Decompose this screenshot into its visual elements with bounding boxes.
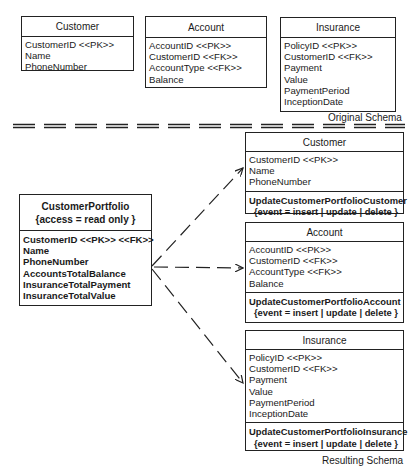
- resulting-schema-label: Resulting Schema: [322, 455, 403, 466]
- trigger-event: {event = insert | update | delete }: [249, 206, 400, 218]
- attribute: PolicyID <<PK>>: [249, 352, 400, 363]
- attribute: Balance: [249, 278, 400, 289]
- trigger-event: {event = insert | update | delete }: [249, 307, 400, 319]
- attribute: CustomerID <<PK>> <<FK>>: [23, 234, 148, 245]
- attribute: InsuranceTotalPayment: [23, 279, 148, 290]
- table-header: Account: [246, 223, 403, 242]
- attribute: PaymentPeriod: [249, 397, 400, 408]
- trigger-section: UpdateCustomerPortfolioAccount {event = …: [246, 292, 403, 322]
- trigger-name: UpdateCustomerPortfolioAccount: [249, 296, 400, 308]
- attribute: CustomerID <<PK>>: [249, 154, 400, 165]
- attribute: CustomerID <<FK>>: [249, 255, 400, 266]
- trigger-event: {event = insert | update | delete }: [249, 438, 400, 450]
- attribute: Name: [23, 245, 148, 256]
- attribute: PhoneNumber: [249, 176, 400, 187]
- view-name: CustomerPortfolio: [42, 200, 130, 213]
- trigger-name: UpdateCustomerPortfolioInsurance: [249, 426, 400, 438]
- schema-separator: [13, 125, 405, 128]
- table-name: Account: [306, 227, 342, 238]
- connector-to-insurance: [152, 269, 243, 383]
- attribute: Payment: [249, 374, 400, 385]
- attribute: AccountsTotalBalance: [23, 268, 148, 279]
- attribute-list: AccountID <<PK>> CustomerID <<FK>> Accou…: [246, 242, 403, 292]
- attribute: Name: [249, 165, 400, 176]
- attribute: PhoneNumber: [23, 256, 148, 267]
- table-name: Insurance: [303, 335, 347, 346]
- trigger-name: UpdateCustomerPortfolioCustomer: [249, 195, 400, 207]
- attribute: AccountID <<PK>>: [249, 244, 400, 255]
- attribute: InsuranceTotalValue: [23, 290, 148, 301]
- connector-to-customer: [152, 168, 243, 266]
- connector-to-account: [154, 267, 243, 268]
- table-header: Insurance: [246, 331, 403, 350]
- attribute-list: CustomerID <<PK>> Name PhoneNumber: [246, 152, 403, 191]
- attribute-list: PolicyID <<PK>> CustomerID <<FK>> Paymen…: [246, 350, 403, 422]
- table-name: Customer: [303, 137, 346, 148]
- attribute: AccountType <<FK>>: [249, 266, 400, 277]
- attribute: InceptionDate: [249, 408, 400, 419]
- trigger-section: UpdateCustomerPortfolioCustomer {event =…: [246, 191, 403, 221]
- view-constraint: {access = read only }: [36, 213, 136, 226]
- trigger-section: UpdateCustomerPortfolioInsurance {event …: [246, 422, 403, 452]
- attribute: Value: [249, 386, 400, 397]
- attribute-list: CustomerID <<PK>> <<FK>> Name PhoneNumbe…: [20, 231, 151, 304]
- view-header: CustomerPortfolio {access = read only }: [20, 195, 151, 231]
- result-account-table: Account AccountID <<PK>> CustomerID <<FK…: [245, 222, 404, 323]
- customer-portfolio-view: CustomerPortfolio {access = read only } …: [19, 194, 152, 306]
- result-customer-table: Customer CustomerID <<PK>> Name PhoneNum…: [245, 132, 404, 214]
- table-header: Customer: [246, 133, 403, 152]
- attribute: CustomerID <<FK>>: [249, 363, 400, 374]
- result-insurance-table: Insurance PolicyID <<PK>> CustomerID <<F…: [245, 330, 404, 451]
